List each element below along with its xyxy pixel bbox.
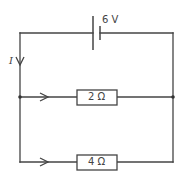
current-label: I xyxy=(9,56,13,66)
resistor-4-ohm-label: 4 Ω xyxy=(88,157,105,167)
circuit-diagram xyxy=(0,0,185,180)
resistor-2-ohm-label: 2 Ω xyxy=(88,92,105,102)
battery-symbol xyxy=(93,16,100,50)
junction-dot-right xyxy=(171,95,175,99)
junction-dot-left xyxy=(18,95,22,99)
battery-label: 6 V xyxy=(102,15,118,25)
